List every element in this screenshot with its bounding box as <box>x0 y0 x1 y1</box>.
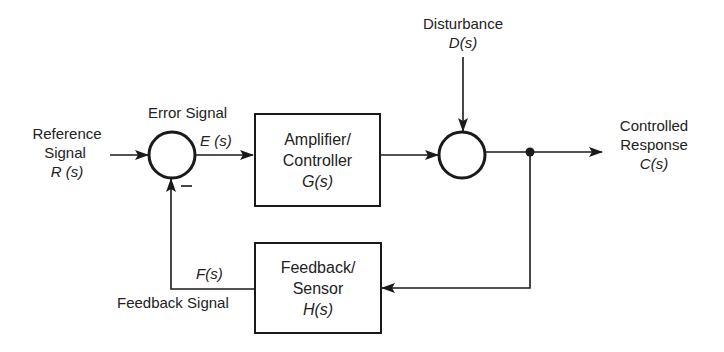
feedback-block: Feedback/ Sensor H(s) <box>254 242 382 334</box>
reference-line1: Reference <box>22 124 112 143</box>
controller-line1: Amplifier/ <box>284 129 351 150</box>
pickoff-point <box>526 148 535 157</box>
feedback-signal-label: Feedback Signal <box>117 293 229 312</box>
summing-junction-2 <box>439 132 485 178</box>
feedback-signal-symbol: F(s) <box>196 264 223 283</box>
controller-line2: Controller <box>283 150 352 171</box>
controller-block: Amplifier/ Controller G(s) <box>254 113 381 207</box>
output-line2: Response <box>604 135 704 154</box>
feedback-symbol: H(s) <box>303 299 333 320</box>
feedback-line2: Sensor <box>293 278 344 299</box>
reference-line2: Signal <box>22 143 112 162</box>
reference-symbol: R (s) <box>22 162 112 181</box>
error-signal-symbol: E (s) <box>200 131 232 150</box>
reference-signal-label: Reference Signal R (s) <box>22 124 112 181</box>
controller-symbol: G(s) <box>302 171 333 192</box>
disturbance-line1: Disturbance <box>410 14 516 33</box>
disturbance-symbol: D(s) <box>410 33 516 52</box>
output-line1: Controlled <box>604 116 704 135</box>
feedback-pickoff-line <box>382 152 530 288</box>
output-symbol: C(s) <box>604 154 704 173</box>
feedback-line1: Feedback/ <box>281 257 356 278</box>
disturbance-label: Disturbance D(s) <box>410 14 516 52</box>
summing-junction-1 <box>149 132 195 178</box>
controlled-response-label: Controlled Response C(s) <box>604 116 704 173</box>
error-signal-label: Error Signal <box>148 103 227 122</box>
